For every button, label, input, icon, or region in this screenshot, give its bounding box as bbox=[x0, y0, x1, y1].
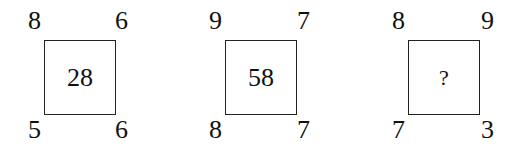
center-value-3: ? bbox=[408, 40, 480, 115]
corner-bottom-right-2: 7 bbox=[297, 117, 310, 143]
corner-bottom-right-3: 3 bbox=[481, 117, 494, 143]
corner-bottom-right-1: 6 bbox=[115, 117, 128, 143]
center-value-2: 58 bbox=[225, 40, 297, 115]
corner-top-right-1: 6 bbox=[115, 8, 128, 34]
corner-top-right-3: 9 bbox=[481, 8, 494, 34]
corner-top-right-2: 7 bbox=[297, 8, 310, 34]
corner-top-left-3: 8 bbox=[392, 8, 405, 34]
corner-bottom-left-1: 5 bbox=[28, 117, 41, 143]
center-value-1: 28 bbox=[44, 40, 116, 115]
corner-top-left-2: 9 bbox=[209, 8, 222, 34]
corner-bottom-left-2: 8 bbox=[209, 117, 222, 143]
corner-bottom-left-3: 7 bbox=[392, 117, 405, 143]
corner-top-left-1: 8 bbox=[28, 8, 41, 34]
